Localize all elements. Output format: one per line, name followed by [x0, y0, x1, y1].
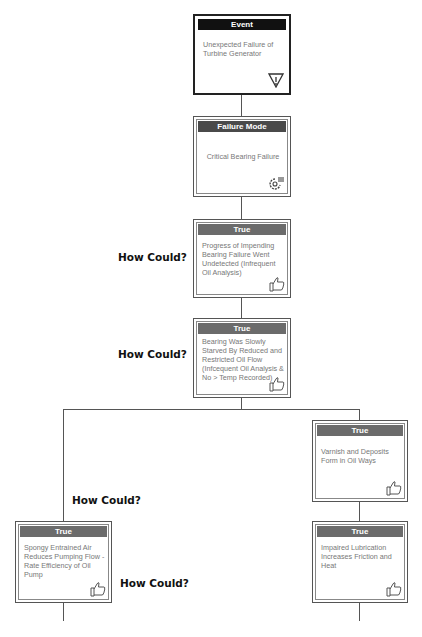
connector-line — [241, 398, 242, 409]
node-header: Failure Mode — [198, 121, 286, 132]
hypothesis-node[interactable]: True Varnish and Deposits Form in Oil Wa… — [312, 420, 408, 502]
node-text: Varnish and Deposits Form in Oil Ways — [321, 447, 401, 465]
node-text: Progress of Impending Bearing Failure We… — [202, 241, 284, 277]
node-header: True — [198, 224, 286, 235]
thumbs-up-icon — [386, 581, 402, 597]
connector-line — [359, 502, 360, 521]
connector-line — [63, 409, 360, 410]
hypothesis-node[interactable]: True Progress of Impending Bearing Failu… — [193, 219, 291, 298]
hypothesis-node[interactable]: True Spongy Entrained Air Reduces Pumpin… — [15, 521, 112, 603]
how-could-label: How Could? — [118, 251, 187, 263]
connector-line — [241, 297, 242, 318]
failure-mode-node[interactable]: Failure Mode Critical Bearing Failure — [193, 116, 291, 197]
how-could-label: How Could? — [72, 494, 141, 506]
node-text: Critical Bearing Failure — [202, 152, 284, 161]
gear-icon — [269, 175, 285, 191]
node-text: Impaired Lubrication Increases Friction … — [321, 543, 401, 570]
hypothesis-node[interactable]: True Bearing Was Slowly Starved By Reduc… — [193, 318, 291, 398]
node-header: Event — [198, 19, 286, 30]
connector-line — [359, 603, 360, 621]
warning-triangle-icon — [268, 72, 284, 88]
how-could-label: How Could? — [120, 577, 189, 589]
node-header: True — [317, 425, 403, 436]
node-text: Unexpected Failure of Turbine Generator — [203, 40, 283, 58]
node-header: True — [198, 323, 286, 334]
how-could-label: How Could? — [118, 348, 187, 360]
node-header: True — [317, 526, 403, 537]
thumbs-up-icon — [90, 581, 106, 597]
event-node[interactable]: Event Unexpected Failure of Turbine Gene… — [193, 14, 291, 95]
connector-line — [241, 94, 242, 116]
node-header: True — [20, 526, 107, 537]
thumbs-up-icon — [269, 276, 285, 292]
connector-line — [63, 603, 64, 621]
connector-line — [359, 409, 360, 420]
connector-line — [63, 409, 64, 521]
thumbs-up-icon — [269, 376, 285, 392]
hypothesis-node[interactable]: True Impaired Lubrication Increases Fric… — [312, 521, 408, 603]
connector-line — [241, 197, 242, 219]
thumbs-up-icon — [386, 480, 402, 496]
node-text: Spongy Entrained Air Reduces Pumping Flo… — [24, 543, 105, 579]
